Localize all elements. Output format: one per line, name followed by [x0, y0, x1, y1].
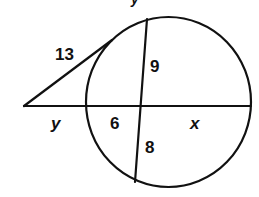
- secant-inner-right-segment-label: x: [189, 114, 201, 133]
- tangent-length-label: 13: [55, 45, 74, 64]
- secant-external-segment-label: y: [50, 114, 62, 133]
- geometry-diagram: y 13 9 y 6 x 8: [0, 0, 259, 197]
- chord-line: [135, 19, 147, 182]
- chord-upper-segment-label: 9: [150, 57, 159, 76]
- circle: [86, 17, 251, 187]
- secant-inner-left-segment-label: 6: [110, 114, 119, 133]
- chord-lower-segment-label: 8: [145, 138, 154, 157]
- cut-off-header-text: y: [130, 0, 140, 7]
